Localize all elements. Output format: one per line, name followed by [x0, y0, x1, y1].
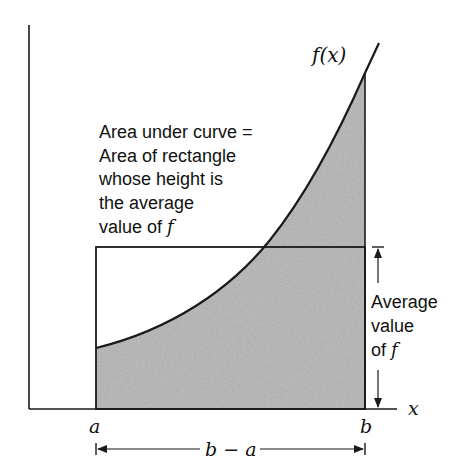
left-annotation: Area under curve = Area of rectangle who…	[98, 122, 253, 237]
point-a-label: a	[89, 415, 100, 437]
right-annotation-line-2: value	[371, 316, 414, 336]
x-axis-label: x	[408, 397, 419, 419]
right-annotation-line-1: Average	[371, 292, 438, 312]
f-symbol: f	[165, 216, 177, 237]
f-symbol: f	[389, 339, 401, 360]
right-annotation-line-3: of f	[371, 339, 401, 360]
annotation-line-5: value of f	[99, 216, 177, 237]
right-annotation-line-3-text: of	[371, 340, 391, 360]
right-annotation: Average value of f	[371, 292, 438, 360]
annotation-line-3: whose height is	[98, 169, 223, 189]
average-value-diagram: f(x) x a b b − a Area under curve = Area…	[0, 0, 472, 474]
point-b-label: b	[360, 415, 372, 437]
annotation-line-4: the average	[99, 193, 194, 213]
width-label: b − a	[205, 438, 257, 460]
annotation-line-1: Area under curve =	[99, 122, 253, 142]
annotation-line-2: Area of rectangle	[99, 146, 236, 166]
curve-label: f(x)	[310, 43, 346, 67]
annotation-line-5-text: value of	[99, 217, 167, 237]
